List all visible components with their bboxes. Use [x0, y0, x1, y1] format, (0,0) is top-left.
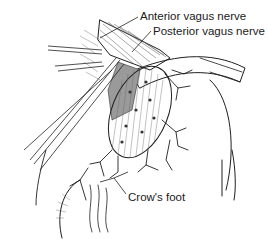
label-crows-foot: Crow's foot	[128, 192, 185, 204]
leader-posterior	[132, 31, 151, 52]
label-anterior-vagus-nerve: Anterior vagus nerve	[140, 11, 246, 23]
surgical-instruments	[24, 46, 124, 170]
label-posterior-vagus-nerve: Posterior vagus nerve	[153, 26, 265, 38]
left-tissue	[80, 30, 100, 80]
stomach-outer-contour	[210, 80, 235, 200]
duodenum	[36, 150, 108, 238]
anatomical-illustration: Anterior vagus nerve Posterior vagus ner…	[0, 0, 268, 247]
